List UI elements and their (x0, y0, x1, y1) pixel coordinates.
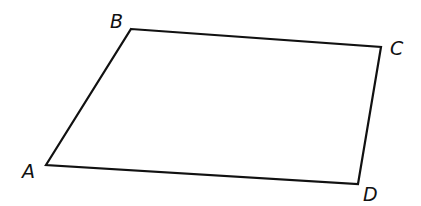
vertex-label-c: C (390, 37, 404, 59)
vertex-label-b: B (110, 10, 123, 32)
quadrilateral-abcd (46, 29, 381, 184)
diagram-svg: A B C D (0, 0, 421, 206)
vertex-label-a: A (20, 160, 35, 182)
quadrilateral-diagram: A B C D (0, 0, 421, 206)
vertex-label-d: D (363, 183, 378, 205)
